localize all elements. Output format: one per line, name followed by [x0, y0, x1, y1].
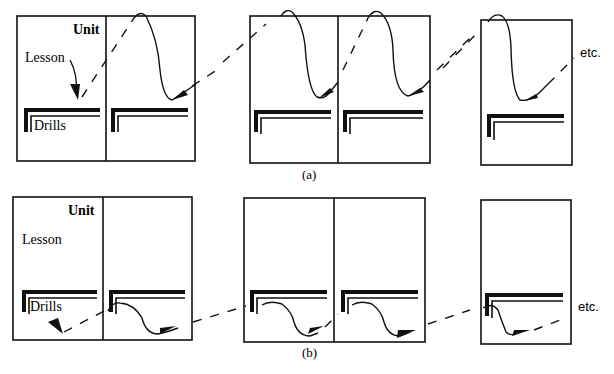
arrowhead-icon — [524, 94, 538, 101]
lesson-label: Lesson — [22, 232, 62, 247]
unit-box-1b — [13, 197, 192, 340]
arrowhead-icon — [308, 326, 324, 334]
panel-a: Unit Lesson Drills etc. (a) — [17, 11, 601, 182]
panel-b: Unit Lesson Drills etc. (b) — [13, 197, 599, 360]
unit-lesson-drills-diagram: .box { fill: none; stroke: #111; stroke-… — [0, 0, 614, 374]
unit-box-3b — [481, 200, 571, 344]
drills-label: Drills — [34, 118, 66, 133]
arrowhead-icon — [512, 330, 530, 336]
unit-box-3a — [481, 20, 572, 165]
unit-box-2b — [244, 198, 425, 342]
arrowhead-icon — [70, 84, 80, 100]
caption-b: (b) — [302, 345, 317, 360]
etc-label: etc. — [580, 45, 601, 60]
drills-bracket-outer — [26, 110, 100, 115]
unit-label: Unit — [68, 203, 95, 218]
arrowhead-icon — [397, 330, 416, 338]
unit-box-1a — [17, 16, 195, 161]
drills-label: Drills — [30, 299, 62, 314]
caption-a: (a) — [302, 167, 316, 182]
arrowhead-icon — [48, 318, 63, 334]
etc-label: etc. — [578, 299, 599, 314]
lesson-label: Lesson — [25, 50, 65, 65]
unit-label: Unit — [73, 22, 100, 37]
unit-box-2a — [250, 16, 430, 163]
